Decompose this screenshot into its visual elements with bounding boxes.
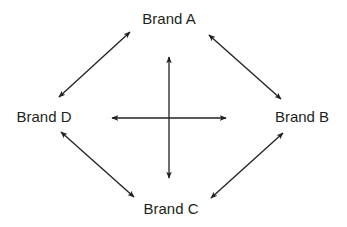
node-brand-a: Brand A [142, 11, 195, 26]
arrow-brand-d-brand-a [59, 32, 130, 97]
node-brand-d: Brand D [16, 109, 71, 124]
arrow-brand-d-brand-c [61, 132, 134, 197]
arrow-brand-a-brand-b [209, 35, 281, 99]
node-brand-c: Brand C [143, 201, 198, 216]
arrow-brand-c-brand-b [211, 133, 283, 198]
node-brand-b: Brand B [275, 109, 329, 124]
